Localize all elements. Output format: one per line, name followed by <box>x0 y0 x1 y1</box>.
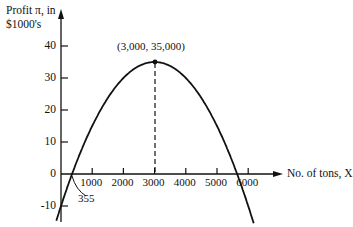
y-ticks <box>61 46 68 206</box>
y-tick-label: 30 <box>45 71 57 84</box>
x-tick-label: 3000 <box>143 176 165 189</box>
x-axis-title: No. of tons, X <box>287 167 353 180</box>
x-tick-label: 1000 <box>80 176 102 189</box>
y-axis-arrow-icon <box>58 9 64 19</box>
peak-label: (3,000, 35,000) <box>117 40 185 53</box>
x-tick-label: 2000 <box>111 176 133 189</box>
y-tick-label: -10 <box>41 199 56 212</box>
y-axis-title-line2: $1000's <box>6 18 41 31</box>
x-axis-arrow-icon <box>273 171 283 177</box>
x-tick-label: 6000 <box>236 176 258 189</box>
y-tick-label: 0 <box>50 167 56 180</box>
y-tick-label: 20 <box>45 103 57 116</box>
x-ticks <box>92 168 248 174</box>
x-tick-label: 4000 <box>174 176 196 189</box>
y-axis-title-line1: Profit π, in <box>6 4 56 17</box>
x-tick-label: 5000 <box>205 176 227 189</box>
peak-point <box>153 60 158 65</box>
y-tick-label: 10 <box>45 135 57 148</box>
intercept-label: 355 <box>78 192 95 205</box>
y-tick-label: 40 <box>45 39 57 52</box>
